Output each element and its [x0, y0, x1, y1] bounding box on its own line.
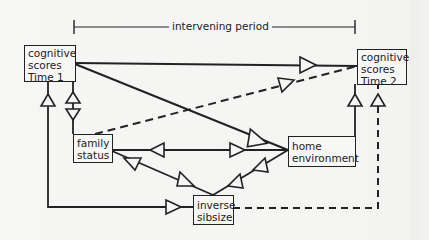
node-label-line: sibsize [197, 211, 230, 223]
arrow-down-icon [66, 109, 80, 120]
arrow-up-icon [66, 92, 80, 103]
node-label-line: Time 2 [361, 75, 403, 87]
edge-family-time2 [95, 66, 357, 134]
node-label-line: status [77, 149, 109, 161]
arrow-diagonal-icon [124, 158, 141, 170]
arrow-up-icon [371, 94, 385, 106]
node-label-line: cognitive [28, 47, 72, 59]
arrow-diagonal-icon [278, 78, 294, 92]
node-inverse-sibsize: inverse sibsize [193, 195, 234, 225]
node-home-environment: home environment [288, 136, 356, 167]
arrow-diagonal-icon [253, 158, 268, 172]
node-label-line: Time 1 [28, 71, 72, 83]
arrow-right-icon [230, 143, 245, 157]
arrow-up-icon [348, 94, 362, 106]
arrow-up-icon [41, 94, 55, 106]
node-label-line: scores [361, 63, 403, 75]
arrow-diagonal-icon [244, 127, 267, 147]
arrow-diagonal-icon [177, 172, 194, 186]
node-cognitive-scores-time1: cognitive scores Time 1 [24, 45, 76, 82]
node-label-line: home [292, 140, 352, 152]
node-cognitive-scores-time2: cognitive scores Time 2 [357, 49, 407, 85]
node-label-line: inverse [197, 199, 230, 211]
node-label-line: family [77, 137, 109, 149]
node-label-line: scores [28, 59, 72, 71]
arrow-left-icon [150, 143, 164, 157]
path-diagram: intervening period cognitive scores Time… [0, 0, 429, 238]
node-label-line: cognitive [361, 51, 403, 63]
intervening-period-label: intervening period [169, 20, 272, 32]
arrow-right-icon [300, 57, 316, 73]
node-label-line: environment [292, 152, 352, 164]
node-family-status: family status [73, 134, 113, 163]
edge-sibsize-home [213, 150, 288, 195]
arrow-right-icon [166, 200, 181, 214]
arrow-diagonal-icon [228, 174, 243, 188]
